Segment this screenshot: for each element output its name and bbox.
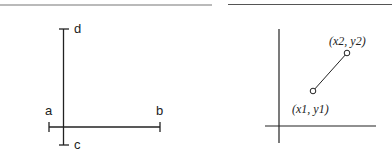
connecting-segment (313, 53, 347, 91)
label-a: a (45, 103, 53, 118)
label-d: d (74, 21, 81, 36)
figure-canvas: d a b c (x2, y2) (x1, y1) (0, 0, 392, 162)
label-b: b (156, 103, 163, 118)
point-2 (344, 50, 350, 56)
label-point-2: (x2, y2) (329, 34, 366, 48)
point-1 (310, 88, 316, 94)
left-diagram (49, 29, 160, 145)
label-point-1: (x1, y1) (292, 102, 329, 116)
label-c: c (74, 137, 81, 152)
